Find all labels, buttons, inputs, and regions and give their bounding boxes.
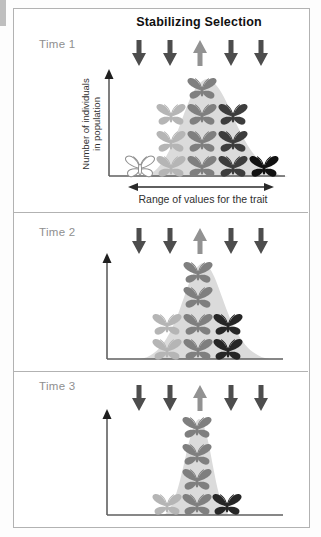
y-axis-label: Number of individuals in population — [80, 64, 102, 184]
scan-artifact — [0, 0, 6, 26]
butterfly-medium — [185, 129, 219, 155]
down-arrow-icon — [254, 385, 268, 411]
up-arrow-icon — [193, 228, 207, 254]
down-arrow-icon — [224, 228, 238, 254]
panel-divider-1 — [14, 212, 308, 213]
down-arrow-icon — [163, 40, 177, 66]
down-arrow-icon — [132, 228, 146, 254]
butterfly-light — [150, 492, 184, 518]
butterfly-dark — [216, 154, 250, 180]
up-arrow-icon — [193, 385, 207, 411]
down-arrow-icon — [254, 40, 268, 66]
panel1-time-label: Time 1 — [39, 38, 76, 50]
butterfly-light — [154, 129, 188, 155]
butterfly-vdark — [210, 492, 244, 518]
butterfly-medium — [181, 285, 215, 311]
butterfly-black — [247, 154, 281, 180]
butterfly-vdark — [211, 312, 245, 338]
down-arrow-icon — [163, 385, 177, 411]
butterfly-light — [150, 312, 184, 338]
butterfly-dark — [216, 102, 250, 128]
y-axis-label-line2: in population — [91, 64, 102, 184]
panel2-time-label: Time 2 — [39, 226, 76, 238]
butterfly-medium — [185, 76, 219, 102]
butterfly-light — [150, 337, 184, 363]
up-arrow-icon — [193, 40, 207, 66]
butterfly-medium — [181, 312, 215, 338]
trait-range-arrow — [128, 182, 274, 192]
butterfly-white — [123, 154, 157, 180]
butterfly-medium — [185, 102, 219, 128]
down-arrow-icon — [132, 385, 146, 411]
butterfly-medium — [181, 337, 215, 363]
butterfly-light — [154, 102, 188, 128]
diagram-title: Stabilizing Selection — [99, 15, 299, 29]
butterfly-medium — [185, 154, 219, 180]
butterfly-vdark — [211, 337, 245, 363]
butterfly-medium — [180, 467, 214, 493]
butterfly-medium — [180, 492, 214, 518]
butterfly-medium — [181, 260, 215, 286]
down-arrow-icon — [132, 40, 146, 66]
butterfly-light — [154, 154, 188, 180]
down-arrow-icon — [254, 228, 268, 254]
butterfly-dark — [216, 129, 250, 155]
y-axis-label-line1: Number of individuals — [80, 64, 91, 184]
panel3-time-label: Time 3 — [39, 380, 76, 392]
butterfly-medium — [180, 442, 214, 468]
panel-divider-2 — [14, 371, 308, 372]
x-axis-label: Range of values for the trait — [103, 193, 303, 205]
stabilizing-selection-diagram: Stabilizing Selection Time 1 Time 2 Time… — [0, 0, 321, 537]
down-arrow-icon — [224, 385, 238, 411]
butterfly-medium — [180, 415, 214, 441]
down-arrow-icon — [163, 228, 177, 254]
down-arrow-icon — [224, 40, 238, 66]
